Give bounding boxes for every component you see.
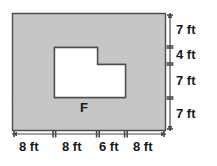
geometry-figure: F 7 ft 4 ft 7 ft 7 ft 8 ft 8 ft 6 ft 8 f…	[0, 0, 217, 166]
vertical-dimension-label-1: 7 ft	[176, 23, 196, 36]
vertical-dimension-label-3: 7 ft	[176, 74, 196, 87]
region-label-F: F	[80, 101, 88, 114]
vertical-dimension-axis	[167, 13, 174, 131]
vertical-dimension-label-2: 4 ft	[176, 48, 196, 61]
horizontal-dimension-label-4: 8 ft	[133, 140, 153, 153]
horizontal-dimension-label-2: 8 ft	[62, 140, 82, 153]
horizontal-dimension-label-1: 8 ft	[19, 140, 39, 153]
horizontal-dimension-label-3: 6 ft	[99, 140, 119, 153]
vertical-dimension-label-4: 7 ft	[176, 107, 196, 120]
horizontal-dimension-axis	[12, 131, 166, 138]
